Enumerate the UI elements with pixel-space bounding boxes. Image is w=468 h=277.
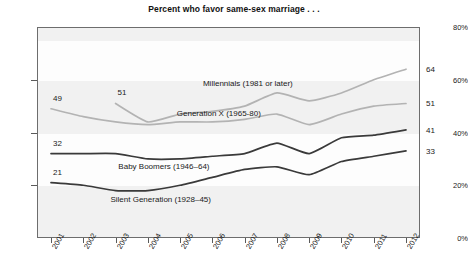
series-lines [37,27,420,238]
y-axis-tick-mark [31,133,37,134]
series-end-value: 33 [426,147,435,156]
y-axis-tick-label: 80% [435,23,468,32]
series-start-value: 32 [53,139,62,148]
y-axis-tick-label: 20% [435,181,468,190]
series-label: Generation X (1965-80) [177,109,261,118]
series-start-value: 51 [118,88,127,97]
y-axis-tick-label: 40% [435,128,468,137]
series-label: Baby Boomers (1946–64) [118,162,209,171]
series-label: Millennials (1981 or later) [203,79,293,88]
series-label: Silent Generation (1928–45) [110,195,211,204]
series-line [51,151,406,191]
chart-title: Percent who favor same-sex marriage . . … [0,4,468,14]
y-axis-tick-label: 0% [435,234,468,243]
series-start-value: 21 [53,168,62,177]
series-end-value: 41 [426,126,435,135]
series-line [51,130,406,159]
y-axis-tick-label: 60% [435,75,468,84]
y-axis-tick-mark [31,80,37,81]
series-end-value: 64 [426,65,435,74]
y-axis-tick-mark [31,185,37,186]
series-end-value: 51 [426,99,435,108]
chart-container: Percent who favor same-sex marriage . . … [0,0,468,277]
series-start-value: 49 [53,94,62,103]
